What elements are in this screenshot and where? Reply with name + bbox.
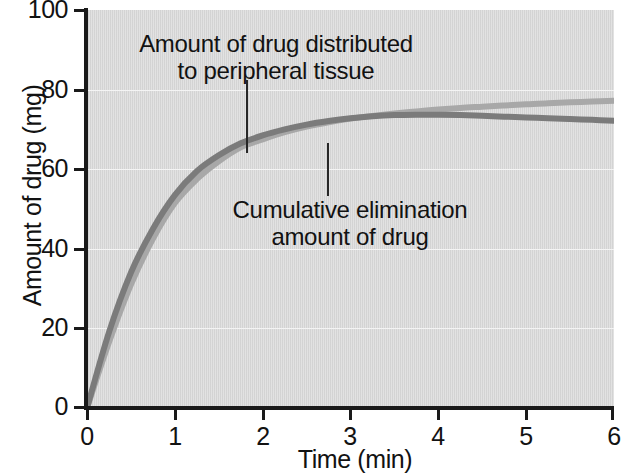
x-tick-label-6: 6 [594, 423, 625, 450]
y-tick-40 [74, 248, 84, 251]
x-tick-label-0: 0 [67, 423, 107, 450]
x-tick-3 [349, 409, 352, 420]
y-tick-80 [74, 89, 84, 92]
x-tick-4 [437, 409, 440, 420]
curve-peripheral-tissue [87, 115, 614, 408]
x-tick-2 [262, 409, 265, 420]
y-tick-60 [74, 168, 84, 171]
y-tick-label-0: 0 [0, 394, 68, 419]
curve-cumulative-elimination [87, 101, 614, 408]
y-tick-20 [74, 327, 84, 330]
x-tick-1 [174, 409, 177, 420]
leader-line-cumulative-elimination [327, 143, 329, 196]
annotation-peripheral-tissue: Amount of drug distributed to peripheral… [96, 30, 456, 84]
x-tick-6 [611, 409, 614, 420]
y-tick-100 [74, 9, 84, 12]
y-tick-label-100: 100 [0, 0, 68, 22]
x-tick-5 [525, 409, 528, 420]
y-axis-line [84, 8, 88, 410]
leader-line-peripheral-tissue [246, 80, 248, 153]
x-tick-label-1: 1 [155, 423, 195, 450]
y-axis-title: Amount of drug (mg) [19, 46, 46, 346]
x-tick-0 [86, 409, 89, 420]
x-tick-label-5: 5 [506, 423, 546, 450]
annotation-cumulative-elimination: Cumulative elimination amount of drug [200, 196, 500, 250]
y-tick-0 [74, 406, 84, 409]
x-axis-title: Time (min) [205, 446, 505, 473]
